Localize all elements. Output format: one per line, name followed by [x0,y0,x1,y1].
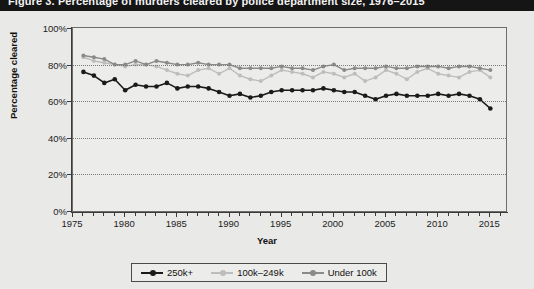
x-tick-mark-minor [114,212,115,216]
series-point [238,66,242,70]
series-point [165,81,170,86]
x-tick-mark-minor [155,212,156,216]
x-tick-mark-minor [416,212,417,216]
x-tick-mark-minor [354,212,355,216]
series-point [363,66,367,70]
series-point [175,72,179,76]
x-tick-mark-minor [218,212,219,216]
series-point [363,79,367,83]
y-tick-label: 20% [48,169,67,180]
series-point [374,75,378,79]
series-point [186,74,190,78]
legend-marker-icon [302,268,324,277]
x-tick-label: 1995 [270,218,291,229]
series-point [228,66,232,70]
series-point [332,72,336,76]
x-axis-title: Year [0,235,534,246]
y-tick-mark [67,138,71,139]
plot-area [72,27,507,212]
x-tick-mark-minor [322,212,323,216]
x-tick-label: 1990 [218,218,239,229]
x-axis-line [71,212,508,213]
y-tick-label: 0% [53,206,67,217]
series-point [238,92,243,97]
series-point [102,57,106,61]
legend-item-250k+[interactable]: 250k+ [141,267,193,278]
legend-item-Under 100k[interactable]: Under 100k [302,267,377,278]
x-tick-mark-minor [364,212,365,216]
series-point [321,86,326,91]
y-tick-mark [67,65,71,66]
series-point [217,90,222,95]
series-point [457,92,462,97]
x-tick-label: 1980 [114,218,135,229]
series-point [342,90,347,95]
series-point [436,72,440,76]
x-tick-label: 1975 [61,218,82,229]
series-layer [73,28,506,211]
y-tick-mark [67,28,71,29]
series-point [488,106,493,111]
series-point [457,75,461,79]
x-tick-label: 2005 [374,218,395,229]
series-point [363,93,368,98]
series-point [447,66,451,70]
x-tick-mark-minor [93,212,94,216]
series-point [259,93,264,98]
x-tick-mark-minor [395,212,396,216]
x-tick-mark-minor [291,212,292,216]
x-tick-mark-major [124,212,125,217]
series-point [394,92,399,97]
legend-item-100k–249k[interactable]: 100k–249k [211,267,283,278]
x-tick-mark-major [489,212,490,217]
series-point [259,66,263,70]
series-point [405,77,409,81]
series-point [436,92,441,97]
series-point [92,59,96,63]
x-tick-mark-minor [103,212,104,216]
series-point [384,93,389,98]
series-point [102,81,107,86]
series-point [248,95,253,100]
series-point [321,70,325,74]
series-point [248,77,252,81]
series-point [342,68,346,72]
series-point [144,84,149,89]
series-point [311,88,316,93]
x-tick-mark-minor [187,212,188,216]
series-line-250k+ [83,72,490,109]
series-point [279,88,284,93]
series-point [269,74,273,78]
series-point [81,70,86,75]
legend-label: 100k–249k [237,267,283,278]
series-point [290,88,295,93]
figure-title: Figure 3. Percentage of murders cleared … [8,0,425,7]
series-point [175,86,180,91]
series-point [415,70,419,74]
series-point [394,66,398,70]
series-point [467,93,472,98]
figure-title-bar: Figure 3. Percentage of murders cleared … [0,0,534,11]
gridline-40 [73,138,506,139]
legend-marker-icon [211,268,233,277]
x-tick-mark-minor [448,212,449,216]
x-tick-mark-minor [166,212,167,216]
series-point [374,66,378,70]
series-point [269,66,273,70]
series-point [478,66,482,70]
series-point [311,75,315,79]
series-point [342,75,346,79]
series-point [300,88,305,93]
series-point [92,73,97,78]
series-point [133,82,138,87]
series-point [384,68,388,72]
x-tick-mark-minor [82,212,83,216]
series-point [81,53,85,57]
x-tick-mark-minor [406,212,407,216]
y-tick-label: 80% [48,59,67,70]
series-point [405,93,410,98]
chart-legend: 250k+100k–249kUnder 100k [131,263,387,282]
y-tick-label: 60% [48,96,67,107]
series-point [301,66,305,70]
x-tick-mark-minor [135,212,136,216]
